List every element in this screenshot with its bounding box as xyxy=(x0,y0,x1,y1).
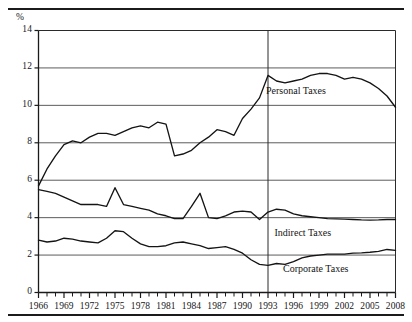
series-line-corporate-taxes xyxy=(39,231,396,266)
gridlines-group xyxy=(39,68,396,255)
y-tick-label: 14 xyxy=(10,24,32,34)
series-label-personal-taxes: Personal Taxes xyxy=(266,85,326,96)
y-tick-label: 12 xyxy=(10,61,32,71)
y-tick-label: 0 xyxy=(10,286,32,296)
axis-ticks-group xyxy=(35,31,396,299)
y-tick-label: 8 xyxy=(10,136,32,146)
y-tick-label: 4 xyxy=(10,211,32,221)
y-tick-label: 10 xyxy=(10,99,32,109)
chart-plot xyxy=(0,0,412,322)
series-line-personal-taxes xyxy=(39,74,396,186)
series-label-corporate-taxes: Corporate Taxes xyxy=(283,263,348,274)
series-line-indirect-taxes xyxy=(39,188,396,220)
series-label-indirect-taxes: Indirect Taxes xyxy=(275,227,332,238)
y-tick-label: 6 xyxy=(10,174,32,184)
y-tick-label: 2 xyxy=(10,249,32,259)
figure-container: % 02468101214 19661969197219751978198119… xyxy=(0,0,412,322)
series-lines-group xyxy=(39,74,396,266)
x-tick-label: 2008 xyxy=(379,301,412,311)
axes-group xyxy=(39,31,396,293)
